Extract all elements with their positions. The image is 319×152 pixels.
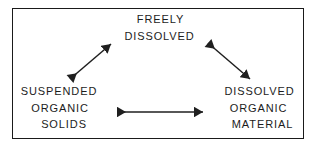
node-suspended-organic-solids-line-3: SOLIDS: [0, 116, 118, 133]
node-freely-dissolved-line-1: FREELY: [0, 11, 319, 28]
node-dissolved-organic-material-line-2: ORGANIC: [206, 100, 319, 117]
diagram-figure: FREELY DISSOLVED SUSPENDED ORGANIC SOLID…: [0, 0, 319, 152]
node-dissolved-organic-material-line-1: DISSOLVED: [206, 83, 319, 100]
node-freely-dissolved: FREELY DISSOLVED: [0, 11, 319, 44]
node-suspended-organic-solids-line-1: SUSPENDED: [0, 83, 118, 100]
node-suspended-organic-solids: SUSPENDED ORGANIC SOLIDS: [0, 83, 118, 133]
node-dissolved-organic-material: DISSOLVED ORGANIC MATERIAL: [206, 83, 319, 133]
node-suspended-organic-solids-line-2: ORGANIC: [0, 100, 118, 117]
node-freely-dissolved-line-2: DISSOLVED: [0, 28, 319, 45]
node-dissolved-organic-material-line-3: MATERIAL: [206, 116, 319, 133]
